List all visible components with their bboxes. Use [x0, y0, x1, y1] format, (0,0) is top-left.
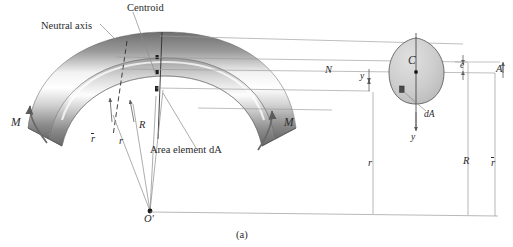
label-y-upper: y [360, 72, 364, 82]
label-neutral-axis: Neutral axis [41, 21, 92, 32]
label-r-beam: r [119, 136, 123, 147]
beam-area-element-mark [155, 86, 158, 91]
leader-area-element [163, 93, 196, 148]
curved-beam-body [28, 32, 296, 146]
label-moment-left: M [11, 117, 21, 129]
r-bar-beam-text: r [91, 134, 95, 145]
label-section-centroid: C [408, 55, 416, 67]
label-centroid: Centroid [127, 3, 164, 14]
figure-caption: (a) [236, 230, 248, 241]
label-dim-r-bar: r [491, 158, 495, 169]
label-eccentricity: e [460, 61, 464, 71]
radius-arrow-R [130, 100, 134, 122]
baseline-horizontal [150, 212, 498, 216]
label-R-beam: R [139, 120, 145, 131]
cross-section-shape [389, 33, 444, 131]
label-section-area-element: dA [424, 110, 435, 120]
curved-beam-figure: Centroid Neutral axis Area element dA M … [0, 0, 513, 247]
radius-arrow-r-bar [110, 98, 112, 122]
label-center-of-curvature: O' [144, 214, 154, 225]
label-area: A [496, 64, 502, 75]
area-element-text: Area element dA [150, 144, 222, 155]
label-moment-right: M [284, 117, 294, 129]
beam-mark-mid [156, 70, 159, 74]
beam-mark-upper [156, 55, 159, 59]
label-r-bar-beam: r [91, 134, 95, 145]
label-y-lower: y [411, 133, 415, 143]
label-dim-R: R [463, 156, 469, 167]
label-dim-r: r [368, 158, 372, 169]
dim-r-bar-text: r [491, 158, 495, 169]
section-area-element-rect [400, 86, 405, 92]
section-centroid-point [414, 70, 418, 74]
label-area-element: Area element dA [150, 145, 222, 156]
figure-graphics [0, 0, 513, 247]
label-section-neutral-axis: N [325, 65, 332, 76]
